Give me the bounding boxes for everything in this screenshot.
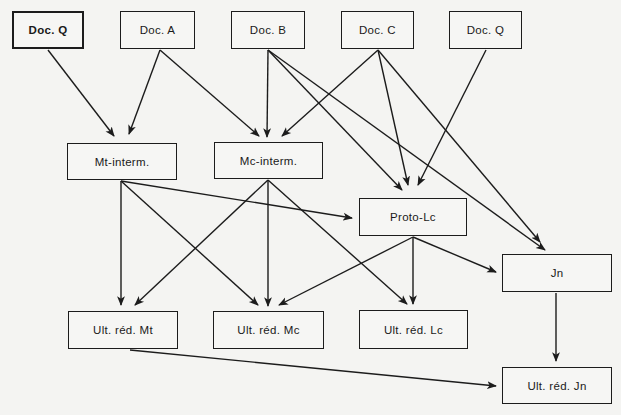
node-label: Ult. réd. Mt: [93, 324, 153, 336]
edge-layer: [0, 0, 621, 415]
node-docA: Doc. A: [120, 11, 195, 49]
node-ultMt: Ult. réd. Mt: [68, 311, 178, 349]
node-docQ2: Doc. Q: [449, 11, 522, 49]
node-label: Doc. C: [359, 24, 396, 36]
node-label: Doc. Q: [467, 24, 505, 36]
node-label: Proto-Lc: [390, 211, 436, 223]
arrow-docA-to-mcInterm: [160, 50, 259, 136]
arrow-docA-to-mtInterm: [129, 50, 160, 134]
node-label: Doc. A: [140, 24, 176, 36]
node-ultMc: Ult. réd. Mc: [213, 311, 324, 349]
arrow-docQ1-to-mtInterm: [48, 50, 114, 136]
node-label: Ult. réd. Lc: [384, 324, 443, 336]
node-label: Jn: [551, 267, 564, 279]
node-docQ1: Doc. Q: [12, 11, 84, 49]
node-label: Mc-interm.: [240, 155, 297, 167]
arrow-docB-to-mcInterm: [267, 50, 268, 137]
stemma-diagram: Doc. QDoc. ADoc. BDoc. CDoc. QMt-interm.…: [0, 0, 621, 415]
arrow-ultMt-to-ultJn: [130, 350, 496, 386]
arrow-mcInterm-to-ultMt: [135, 180, 268, 305]
arrow-docQ2-to-protoLc: [418, 50, 486, 185]
node-mtInterm: Mt-interm.: [67, 143, 177, 180]
arrow-docC-to-mcInterm: [282, 50, 378, 136]
node-label: Ult. réd. Jn: [527, 380, 586, 392]
node-label: Doc. B: [250, 24, 286, 36]
node-ultLc: Ult. réd. Lc: [359, 310, 468, 349]
arrow-protoLc-to-ultMc: [279, 237, 413, 305]
node-label: Ult. réd. Mc: [237, 324, 299, 336]
node-protoLc: Proto-Lc: [359, 198, 467, 236]
node-label: Mt-interm.: [95, 156, 150, 168]
node-mcInterm: Mc-interm.: [214, 142, 323, 179]
node-docC: Doc. C: [341, 11, 414, 49]
arrow-protoLc-to-jn: [413, 237, 496, 272]
node-label: Doc. Q: [29, 24, 68, 36]
node-docB: Doc. B: [231, 11, 305, 49]
node-jn: Jn: [502, 254, 612, 292]
arrow-docC-to-protoLc: [378, 50, 408, 185]
node-ultJn: Ult. réd. Jn: [502, 367, 612, 404]
